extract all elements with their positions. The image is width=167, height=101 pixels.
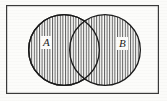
circle-a-label: A — [41, 36, 52, 49]
venn-diagram-figure: A B — [0, 0, 167, 101]
venn-diagram-canvas — [0, 0, 167, 101]
circle-b-label: B — [117, 37, 128, 50]
circle-b — [70, 15, 141, 86]
